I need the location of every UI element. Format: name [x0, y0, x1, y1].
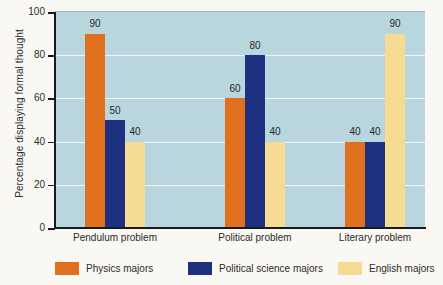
- legend-swatch-political-science-majors: [188, 262, 212, 275]
- y-tick-label-80: 80: [20, 49, 45, 60]
- value-label-political-science-literary: 40: [362, 126, 388, 137]
- legend-item-political-science-majors[interactable]: Political science majors: [188, 262, 323, 275]
- value-label-english-pendulum: 40: [122, 126, 148, 137]
- y-tick-40: [48, 142, 55, 144]
- x-axis-label-literary: Literary problem: [339, 232, 411, 243]
- y-tick-60: [48, 98, 55, 100]
- y-tick-label-60: 60: [20, 92, 45, 103]
- legend-swatch-physics-majors: [55, 262, 79, 275]
- bar-political-science-political[interactable]: [245, 55, 265, 228]
- y-tick-label-100: 100: [20, 6, 45, 17]
- gridline-80: [55, 55, 425, 56]
- y-axis-line: [54, 12, 56, 228]
- y-tick-80: [48, 55, 55, 57]
- legend: Physics majors Political science majors …: [0, 262, 443, 280]
- value-label-physics-political: 60: [222, 83, 248, 94]
- y-tick-100: [48, 12, 55, 14]
- value-label-political-science-pendulum: 50: [102, 105, 128, 116]
- bar-english-literary[interactable]: [385, 34, 405, 228]
- legend-item-physics-majors[interactable]: Physics majors: [55, 262, 153, 275]
- legend-label-political-science-majors: Political science majors: [219, 263, 323, 274]
- bar-english-political[interactable]: [265, 142, 285, 228]
- y-tick-label-0: 0: [20, 222, 45, 233]
- x-axis-line: [55, 227, 426, 229]
- y-tick-20: [48, 185, 55, 187]
- bar-chart-figure: Percentage displaying formal thought 90 …: [0, 0, 443, 285]
- y-tick-0: [48, 228, 55, 230]
- y-tick-label-40: 40: [20, 136, 45, 147]
- plot-top-edge: [55, 11, 425, 12]
- bar-physics-political[interactable]: [225, 98, 245, 228]
- bar-english-pendulum[interactable]: [125, 142, 145, 228]
- bar-physics-literary[interactable]: [345, 142, 365, 228]
- legend-item-english-majors[interactable]: English majors: [338, 262, 435, 275]
- x-axis-label-political: Political problem: [218, 232, 291, 243]
- y-tick-label-20: 20: [20, 179, 45, 190]
- x-axis-label-pendulum: Pendulum problem: [73, 232, 157, 243]
- legend-label-physics-majors: Physics majors: [86, 263, 153, 274]
- value-label-physics-pendulum: 90: [82, 18, 108, 29]
- value-label-english-political: 40: [262, 126, 288, 137]
- value-label-english-literary: 90: [382, 18, 408, 29]
- bar-physics-pendulum[interactable]: [85, 34, 105, 228]
- legend-label-english-majors: English majors: [369, 263, 435, 274]
- bar-political-science-literary[interactable]: [365, 142, 385, 228]
- plot-area: 90 50 40 60 80 40 40 40 90: [55, 12, 425, 228]
- legend-swatch-english-majors: [338, 262, 362, 275]
- value-label-political-science-political: 80: [242, 40, 268, 51]
- y-axis-title: Percentage displaying formal thought: [14, 0, 25, 229]
